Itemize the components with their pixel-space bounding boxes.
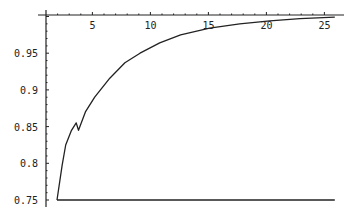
- axes: [38, 10, 344, 207]
- x-tick-label: 5: [89, 20, 95, 31]
- y-tick-label: 0.8: [20, 158, 38, 169]
- x-tick-label: 25: [318, 20, 330, 31]
- y-tick-label: 0.95: [14, 48, 38, 59]
- line-chart: 510152025 0.750.80.850.90.95: [0, 0, 354, 217]
- y-axis-ticks: 0.750.80.850.90.95: [14, 17, 49, 207]
- y-tick-label: 0.85: [14, 122, 38, 133]
- y-tick-label: 0.75: [14, 195, 38, 206]
- series-curve: [57, 17, 335, 200]
- y-tick-label: 0.9: [20, 85, 38, 96]
- x-tick-label: 10: [144, 20, 156, 31]
- plot-series: [57, 17, 335, 200]
